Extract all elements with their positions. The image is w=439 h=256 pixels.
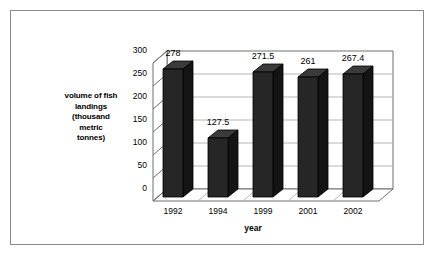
y-axis-title-line-4: metric: [41, 123, 141, 134]
chart-card: volume of fish landings (thousand metric…: [10, 10, 424, 245]
y-axis-title-line-2: landings: [41, 102, 141, 113]
bar-1992[interactable]: [163, 61, 193, 197]
bar-2002[interactable]: [343, 66, 373, 197]
x-axis-title: year: [213, 223, 293, 233]
bar-1999[interactable]: [253, 64, 283, 197]
y-tick-label-200: 200: [121, 92, 147, 101]
y-tick-label-50: 50: [121, 161, 147, 170]
plot-area: 300 250 200 150 100 50 0 278 127.5 271.5…: [135, 39, 425, 239]
y-tick-label-300: 300: [121, 46, 147, 55]
bar-1992-side: [183, 61, 193, 197]
y-tick-label-250: 250: [121, 69, 147, 78]
x-tick-label-2001: 2001: [288, 207, 328, 216]
bar-1994-front: [208, 138, 228, 197]
bar-2001[interactable]: [298, 69, 328, 197]
bar-value-label-2001: 261: [288, 56, 328, 66]
bar-1992-front: [163, 69, 183, 197]
x-tick-label-2002: 2002: [333, 207, 373, 216]
bar-2002-front: [343, 74, 363, 197]
bar-2001-front: [298, 77, 318, 197]
bar-value-label-2002: 267.4: [333, 53, 373, 63]
y-tick-label-100: 100: [121, 138, 147, 147]
bar-1999-side: [273, 64, 283, 197]
x-tick-label-1994: 1994: [198, 207, 238, 216]
bar-1994-side: [228, 130, 238, 197]
x-tick-label-1992: 1992: [153, 207, 193, 216]
bar-value-label-1999: 271.5: [243, 51, 283, 61]
y-tick-label-0: 0: [121, 184, 147, 193]
x-tick-label-1999: 1999: [243, 207, 283, 216]
y-tick-label-150: 150: [121, 115, 147, 124]
bar-value-label-1994: 127.5: [198, 117, 238, 127]
bar-value-label-1992: 278: [153, 48, 193, 58]
bar-1999-front: [253, 72, 273, 197]
bar-1994[interactable]: [208, 130, 238, 197]
bar-2001-side: [318, 69, 328, 197]
bar-2002-side: [363, 66, 373, 197]
